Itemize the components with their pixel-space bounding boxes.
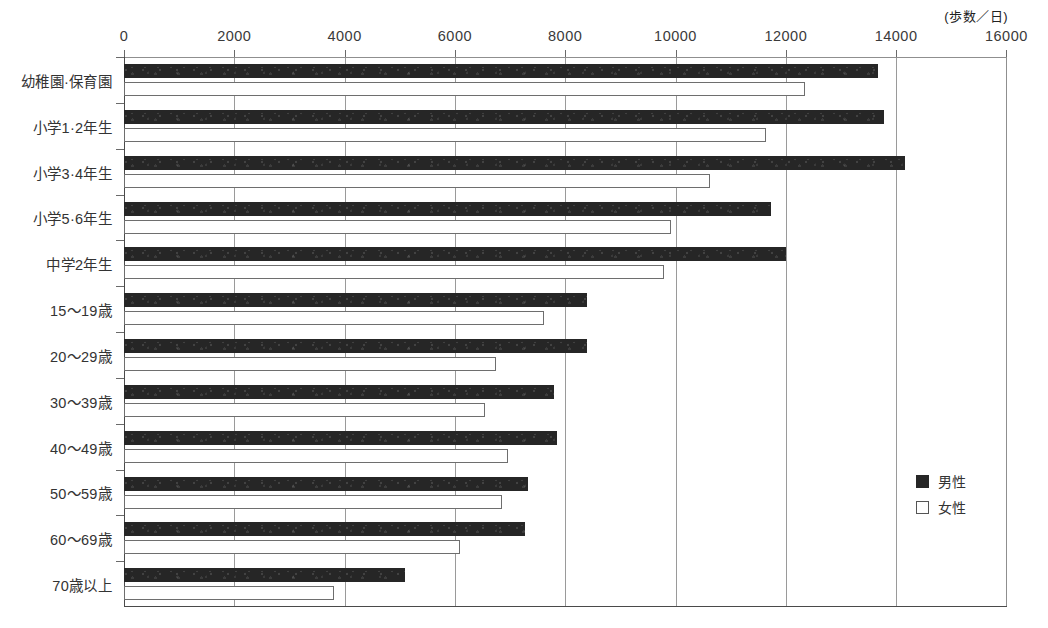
bar-male bbox=[124, 156, 905, 170]
bar-female bbox=[124, 311, 544, 325]
bar-male bbox=[124, 202, 771, 216]
x-tick-label: 16000 bbox=[985, 28, 1028, 44]
bar-male bbox=[124, 568, 405, 582]
y-tick-mark bbox=[116, 286, 124, 287]
y-tick-mark bbox=[116, 515, 124, 516]
bar-female bbox=[124, 586, 334, 600]
legend-item-male: 男性 bbox=[916, 468, 1006, 494]
category-label: 小学3·4年生 bbox=[0, 162, 112, 183]
category-label: 40〜49歳 bbox=[0, 437, 112, 458]
bar-female bbox=[124, 220, 671, 234]
bar-male bbox=[124, 293, 587, 307]
bar-female bbox=[124, 540, 460, 554]
legend-swatch-male-icon bbox=[916, 475, 929, 488]
x-tick-label: 8000 bbox=[548, 28, 582, 44]
x-tick-label: 6000 bbox=[438, 28, 472, 44]
legend-swatch-female-icon bbox=[916, 501, 929, 514]
bar-male bbox=[124, 247, 786, 261]
bar-female bbox=[124, 495, 502, 509]
legend: 男性 女性 bbox=[916, 468, 1006, 520]
y-tick-mark bbox=[116, 332, 124, 333]
chart-root: (歩数／日) 020004000600080001000012000140001… bbox=[0, 0, 1048, 628]
bar-female bbox=[124, 174, 710, 188]
category-label: 60〜69歳 bbox=[0, 528, 112, 549]
bar-female bbox=[124, 265, 664, 279]
category-label: 小学1·2年生 bbox=[0, 116, 112, 137]
x-tick-label: 10000 bbox=[654, 28, 697, 44]
x-tick-label: 4000 bbox=[327, 28, 361, 44]
unit-annotation: (歩数／日) bbox=[944, 6, 1008, 25]
y-tick-mark bbox=[116, 57, 124, 58]
bar-female bbox=[124, 403, 485, 417]
bar-male bbox=[124, 339, 587, 353]
category-label: 幼稚園·保育園 bbox=[0, 70, 112, 91]
bar-female bbox=[124, 128, 766, 142]
bar-male bbox=[124, 110, 884, 124]
y-tick-mark bbox=[116, 561, 124, 562]
x-tick-label: 14000 bbox=[875, 28, 918, 44]
y-tick-mark bbox=[116, 195, 124, 196]
category-label: 70歳以上 bbox=[0, 574, 112, 595]
y-tick-mark bbox=[116, 240, 124, 241]
bar-male bbox=[124, 522, 525, 536]
bar-male bbox=[124, 385, 554, 399]
x-tick-label: 12000 bbox=[764, 28, 807, 44]
legend-item-female: 女性 bbox=[916, 494, 1006, 520]
bar-female bbox=[124, 449, 508, 463]
y-tick-mark bbox=[116, 149, 124, 150]
category-label: 50〜59歳 bbox=[0, 482, 112, 503]
category-label: 15〜19歳 bbox=[0, 299, 112, 320]
y-tick-mark bbox=[116, 424, 124, 425]
y-tick-mark bbox=[116, 378, 124, 379]
bar-male bbox=[124, 477, 528, 491]
x-tick-label: 2000 bbox=[217, 28, 251, 44]
category-label: 中学2年生 bbox=[0, 253, 112, 274]
y-tick-mark bbox=[116, 470, 124, 471]
bar-male bbox=[124, 431, 557, 445]
legend-label-male: 男性 bbox=[938, 471, 966, 491]
legend-label-female: 女性 bbox=[938, 497, 966, 517]
category-label: 小学5·6年生 bbox=[0, 207, 112, 228]
category-label: 20〜29歳 bbox=[0, 345, 112, 366]
bar-male bbox=[124, 64, 878, 78]
bar-female bbox=[124, 357, 496, 371]
y-tick-mark bbox=[116, 103, 124, 104]
bar-female bbox=[124, 82, 805, 96]
category-label: 30〜39歳 bbox=[0, 391, 112, 412]
x-tick-label: 0 bbox=[120, 28, 129, 44]
